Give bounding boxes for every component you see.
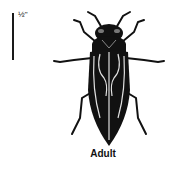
figure-caption: Adult	[0, 148, 178, 159]
caption-text: Adult	[90, 148, 116, 159]
beetle-illustration	[40, 0, 178, 150]
scale-label: ½"	[18, 10, 28, 19]
scale-bar	[12, 13, 14, 60]
